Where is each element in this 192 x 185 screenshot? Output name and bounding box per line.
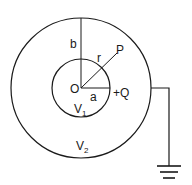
label-b: b [70, 37, 77, 51]
label-V1-subscript: 1 [82, 109, 87, 118]
label-V1: V [74, 102, 82, 116]
label-r: r [97, 51, 101, 65]
label-a: a [90, 90, 97, 104]
label-O: O [70, 82, 79, 96]
ground-icon [157, 166, 181, 178]
label-V2-subscript: 2 [84, 146, 89, 155]
label-charge: +Q [113, 86, 129, 100]
label-P: P [116, 43, 124, 57]
concentric-spheres-diagram: b r P O a +Q V 1 V 2 [0, 0, 192, 185]
ground-wire [151, 88, 169, 166]
label-V2: V [76, 139, 84, 153]
